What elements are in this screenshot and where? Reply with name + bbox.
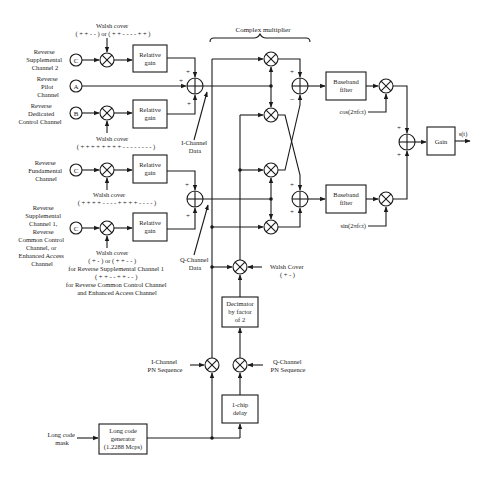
q-walsh-cover-label: Walsh Cover ( + - )	[270, 263, 305, 279]
svg-text:+: +	[290, 68, 294, 76]
svg-text:+: +	[290, 181, 294, 189]
svg-text:+: +	[186, 68, 190, 76]
svg-text:+: +	[186, 212, 190, 220]
cm-q-summer-icon	[292, 191, 308, 207]
output-summer-icon	[399, 134, 415, 150]
output-signal-label: s(t)	[459, 130, 468, 138]
svg-text:C: C	[74, 225, 79, 233]
complex-multiplier-label: Complex multiplier	[235, 26, 291, 34]
dedicated-walsh-label: Walsh cover ( + + + + + + + + - - - - - …	[77, 135, 156, 151]
i-pn-multiplier-icon	[205, 358, 219, 372]
dedicated-walsh-multiplier-icon	[100, 106, 114, 120]
cdma-reverse-link-diagram: Complex multiplier Reverse Supplemental …	[0, 0, 493, 478]
supp2-walsh-multiplier-icon	[100, 53, 114, 67]
input-supp2: Reverse Supplemental Channel 2 C Walsh c…	[26, 22, 195, 77]
svg-text:+: +	[179, 77, 183, 85]
fundamental-walsh-label: Walsh cover ( + + + + - - - - + + + + - …	[78, 191, 157, 207]
q-walsh-cover-multiplier-icon	[233, 260, 247, 274]
input-dedicated: Reverse Dedicated Control Channel B Wals…	[18, 95, 195, 151]
i-channel-summer-icon	[187, 78, 203, 94]
cos-mixer-icon	[379, 79, 393, 93]
supp2-walsh-label: Walsh cover ( + + - - ) or ( + + - - - -…	[75, 22, 150, 38]
cm-i-summer-icon	[292, 78, 308, 94]
fundamental-label: Reverse Fundamental Channel	[28, 159, 64, 182]
svg-text:−: −	[290, 95, 295, 104]
cm-multiplier-4-icon	[264, 220, 278, 234]
svg-text:+: +	[187, 100, 191, 108]
cm-multiplier-2-icon	[264, 108, 278, 122]
sin-mixer-icon	[379, 192, 393, 206]
input-supp1: Reverse Supplemental Channel 1, Reverse …	[18, 204, 195, 296]
svg-text:C: C	[74, 167, 79, 175]
svg-text:+: +	[397, 124, 401, 132]
q-pn-multiplier-icon	[233, 358, 247, 372]
long-code-mask-label: Long code mask	[47, 431, 76, 446]
complex-multiplier-brace: Complex multiplier	[210, 26, 310, 42]
svg-text:+: +	[185, 181, 189, 189]
svg-text:B: B	[74, 110, 79, 118]
supp1-label: Reverse Supplemental Channel 1, Reverse …	[18, 204, 65, 267]
fundamental-walsh-multiplier-icon	[100, 163, 114, 177]
svg-text:+: +	[397, 151, 401, 159]
input-pilot: Reverse Pilot Channel A	[37, 75, 186, 98]
i-pn-sequence-label: I-Channel PN Sequence	[148, 358, 183, 373]
svg-text:+: +	[290, 208, 294, 216]
sin-carrier-label: sin(2πfᴄt)	[340, 222, 366, 230]
dedicated-label: Reverse Dedicated Control Channel	[18, 102, 61, 125]
supp1-walsh-multiplier-icon	[100, 221, 114, 235]
q-channel-data-label: Q-Channel Data	[180, 256, 210, 271]
svg-text:Gain: Gain	[435, 138, 448, 145]
svg-text:C: C	[74, 57, 79, 65]
cm-multiplier-3-icon	[264, 163, 278, 177]
pilot-label: Reverse Pilot Channel	[37, 75, 60, 98]
q-channel-summer-icon	[187, 191, 203, 207]
svg-text:1-chipdelay: 1-chipdelay	[232, 401, 249, 416]
cm-multiplier-1-icon	[264, 52, 278, 66]
svg-text:A: A	[73, 83, 78, 91]
input-fundamental: Reverse Fundamental Channel C Walsh cove…	[28, 155, 195, 207]
cos-carrier-label: cos(2πfᴄt)	[339, 108, 366, 116]
q-pn-sequence-label: Q-Channel PN Sequence	[271, 358, 306, 373]
supp1-walsh-label: Walsh cover ( + - ) or ( + + - - ) for R…	[66, 249, 168, 296]
supp2-label: Reverse Supplemental Channel 2	[26, 48, 63, 71]
i-channel-data-label: I-Channel Data	[181, 139, 209, 154]
